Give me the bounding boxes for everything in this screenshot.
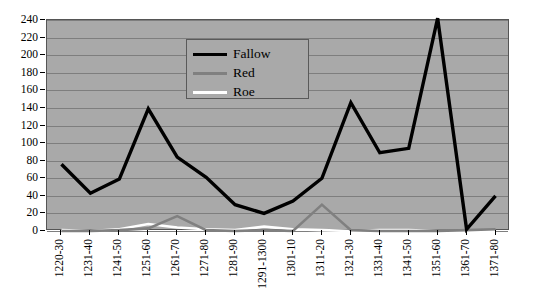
x-tick-label: 1371-80 — [488, 239, 500, 277]
x-tick-mark — [466, 230, 467, 235]
y-tick-mark — [40, 212, 45, 213]
y-tick-label: 220 — [21, 31, 38, 43]
legend-swatch-fallow — [193, 53, 227, 56]
y-tick-label: 140 — [21, 101, 38, 113]
x-tick-label: 1351-60 — [430, 239, 442, 277]
y-tick-mark — [40, 142, 45, 143]
x-tick-mark — [350, 230, 351, 235]
y-tick-label: 160 — [21, 83, 38, 95]
y-tick-mark — [40, 72, 45, 73]
x-tick-mark — [176, 230, 177, 235]
y-tick-label: 40 — [27, 189, 39, 201]
y-tick-label: 200 — [21, 48, 38, 60]
y-tick-label: 180 — [21, 66, 38, 78]
x-tick-label: 1231-40 — [82, 239, 94, 277]
x-tick-mark — [408, 230, 409, 235]
chart-legend: FallowRedRoe — [186, 39, 309, 99]
x-tick-mark — [205, 230, 206, 235]
legend-entry-fallow: Fallow — [193, 44, 271, 64]
x-tick-label: 1271-80 — [198, 239, 210, 277]
x-tick-mark — [234, 230, 235, 235]
x-tick-label: 1361-70 — [459, 239, 471, 277]
y-tick-label: 100 — [21, 136, 38, 148]
y-tick-label: 120 — [21, 119, 38, 131]
x-tick-mark — [292, 230, 293, 235]
y-tick-mark — [40, 177, 45, 178]
y-tick-mark — [40, 37, 45, 38]
y-tick-mark — [40, 125, 45, 126]
y-tick-label: 0 — [32, 224, 38, 236]
y-tick-mark — [40, 19, 45, 20]
x-tick-mark — [321, 230, 322, 235]
y-axis: 240220200180160140120100806040200 — [0, 19, 46, 230]
x-tick-mark — [437, 230, 438, 235]
x-tick-label: 1281-90 — [227, 239, 239, 277]
x-tick-mark — [263, 230, 264, 235]
x-tick-label: 1261-70 — [169, 239, 181, 277]
y-tick-mark — [40, 107, 45, 108]
x-tick-label: 1331-40 — [372, 239, 384, 277]
x-tick-mark — [118, 230, 119, 235]
x-tick-label: 1301-10 — [285, 239, 297, 277]
y-tick-mark — [40, 230, 45, 231]
y-tick-label: 240 — [21, 13, 38, 25]
y-tick-label: 60 — [27, 171, 39, 183]
x-tick-label: 1241-50 — [111, 239, 123, 277]
legend-label: Roe — [233, 85, 255, 99]
x-tick-label: 1291-1300 — [256, 239, 268, 289]
x-tick-label: 1251-60 — [140, 239, 152, 277]
legend-entry-roe: Roe — [193, 82, 255, 102]
x-tick-label: 1311-20 — [314, 239, 326, 277]
y-tick-mark — [40, 89, 45, 90]
y-tick-mark — [40, 195, 45, 196]
x-axis: 1220-301231-401241-501251-601261-701271-… — [46, 230, 509, 308]
chart-figure: 240220200180160140120100806040200 1220-3… — [0, 0, 544, 308]
y-tick-label: 80 — [27, 154, 39, 166]
x-tick-mark — [147, 230, 148, 235]
y-tick-label: 20 — [27, 206, 39, 218]
x-tick-mark — [60, 230, 61, 235]
legend-label: Fallow — [233, 47, 271, 61]
y-tick-mark — [40, 160, 45, 161]
x-tick-label: 1220-30 — [53, 239, 65, 277]
x-tick-mark — [379, 230, 380, 235]
y-tick-mark — [40, 54, 45, 55]
x-tick-mark — [495, 230, 496, 235]
x-tick-label: 1341-50 — [401, 239, 413, 277]
legend-swatch-red — [193, 72, 227, 75]
legend-label: Red — [233, 66, 255, 80]
x-tick-label: 1321-30 — [343, 239, 355, 277]
legend-swatch-roe — [193, 91, 227, 94]
x-tick-mark — [89, 230, 90, 235]
legend-entry-red: Red — [193, 63, 255, 83]
